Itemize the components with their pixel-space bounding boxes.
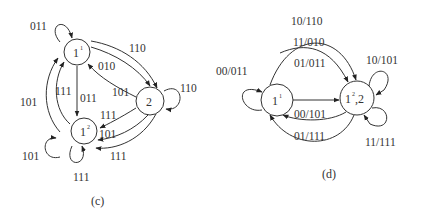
label-c-111-upper: 111 [100, 109, 117, 121]
edge-c-2-self-110 [164, 89, 180, 110]
state-diagrams: 011 110 010 101 110 011 111 101 111 101 … [0, 0, 422, 219]
svg-text:1: 1 [345, 92, 351, 106]
diagram-d: 00/011 10/110 11/010 01/011 00/101 01/11… [216, 15, 398, 181]
label-d-11-111: 11/111 [365, 136, 396, 148]
label-d-00-011: 00/011 [216, 65, 248, 77]
svg-text:1: 1 [272, 94, 278, 108]
caption-d: (d) [322, 167, 336, 181]
label-c-110-self: 110 [180, 82, 197, 94]
svg-text:2: 2 [87, 124, 90, 130]
label-c-111-lower: 111 [110, 150, 127, 162]
svg-text:,2: ,2 [355, 92, 364, 106]
svg-text:2: 2 [146, 95, 152, 109]
node-c-2: 2 [136, 87, 164, 115]
edge-c-1_2-self-111 [70, 146, 84, 163]
svg-text:1: 1 [80, 125, 86, 139]
label-d-01-111: 01/111 [294, 130, 325, 142]
label-c-101-to-1_1: 101 [112, 86, 130, 98]
label-c-111-self: 111 [73, 171, 90, 183]
label-c-010: 010 [98, 60, 116, 72]
node-c-1-1: 1 1 [64, 39, 90, 65]
node-c-1-2: 1 2 [71, 118, 97, 144]
edge-d-1_1-self-0011 [242, 89, 262, 110]
caption-c: (c) [91, 194, 104, 208]
label-c-101-self: 101 [22, 150, 40, 162]
label-d-10-101: 10/101 [366, 54, 398, 66]
edge-c-1_1-self-011 [55, 24, 72, 42]
label-d-10-110: 10/110 [291, 15, 323, 27]
diagram-c: 011 110 010 101 110 011 111 101 111 101 … [20, 20, 197, 208]
svg-text:1: 1 [73, 46, 79, 60]
label-c-101-up: 101 [20, 96, 38, 108]
label-c-101-mid: 101 [99, 128, 117, 140]
node-d-1-2-2: 1 2 ,2 [340, 81, 374, 115]
label-c-011-down: 011 [80, 92, 97, 104]
svg-text:1: 1 [80, 45, 83, 51]
label-c-111-up: 111 [55, 85, 72, 97]
label-c-011-self: 011 [30, 20, 47, 32]
edge-c-1_2-self-101 [45, 138, 60, 158]
label-c-110: 110 [129, 42, 146, 54]
node-d-1-1: 1 1 [261, 84, 293, 116]
label-d-01-011: 01/011 [294, 57, 326, 69]
label-d-00-101: 00/101 [294, 108, 326, 120]
svg-text:1: 1 [279, 93, 282, 99]
label-d-11-010: 11/010 [293, 36, 325, 48]
